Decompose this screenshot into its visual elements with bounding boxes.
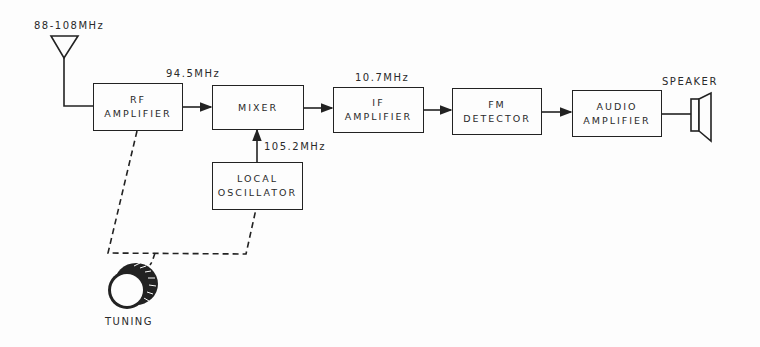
block-label: LOCAL (218, 172, 297, 186)
block-label: AMPLIFIER (583, 114, 650, 128)
tuning-label: TUNING (105, 316, 153, 327)
block-label: IF (345, 96, 412, 110)
rf-output-frequency-label: 94.5MHz (166, 68, 220, 79)
if-amplifier-block: IFAMPLIFIER (333, 87, 424, 133)
block-label: MIXER (238, 101, 278, 115)
antenna-frequency-label: 88-108MHz (34, 20, 104, 31)
if-frequency-label: 10.7MHz (355, 72, 409, 83)
speaker-label: SPEAKER (662, 76, 718, 87)
fm-detector-block: FMDETECTOR (452, 88, 542, 135)
connections-layer (0, 0, 760, 347)
block-label: OSCILLATOR (218, 186, 297, 200)
speaker-icon (691, 93, 711, 141)
local-oscillator-block: LOCALOSCILLATOR (212, 162, 303, 210)
lo-frequency-label: 105.2MHz (264, 141, 326, 152)
tuning-knob-icon[interactable] (108, 263, 158, 309)
block-label: AUDIO (583, 100, 650, 114)
audio-amplifier-block: AUDIOAMPLIFIER (572, 90, 662, 137)
block-label: AMPLIFIER (345, 110, 412, 124)
rf-amplifier-block: RFAMPLIFIER (93, 83, 183, 131)
block-label: DETECTOR (463, 112, 531, 126)
block-label: AMPLIFIER (104, 107, 171, 121)
block-label: RF (104, 93, 171, 107)
antenna-icon (51, 36, 93, 106)
mixer-block: MIXER (212, 85, 304, 130)
fm-receiver-block-diagram: 88-108MHz 94.5MHz 10.7MHz 105.2MHz SPEAK… (0, 0, 760, 347)
block-label: FM (463, 98, 531, 112)
